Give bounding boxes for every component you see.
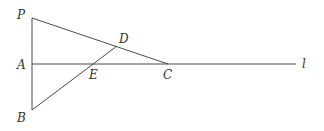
label-C: C bbox=[163, 68, 172, 82]
segment-BD bbox=[32, 46, 117, 110]
label-A: A bbox=[16, 58, 26, 72]
label-E: E bbox=[88, 68, 98, 82]
label-D: D bbox=[118, 32, 129, 46]
label-P: P bbox=[16, 8, 26, 22]
segment-PC bbox=[32, 18, 168, 64]
geometry-diagram: P A B C D E l bbox=[0, 0, 324, 131]
label-B: B bbox=[16, 111, 26, 125]
label-l: l bbox=[302, 57, 306, 71]
diagram-svg: P A B C D E l bbox=[0, 0, 324, 131]
